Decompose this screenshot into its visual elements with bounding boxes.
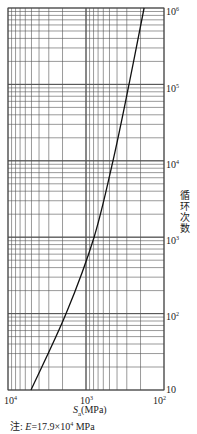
- y-tick-1e3: 103: [166, 233, 179, 246]
- fatigue-curve: [31, 8, 144, 390]
- y-tick-1e6: 106: [166, 4, 179, 17]
- chart-plot: [0, 0, 197, 434]
- y-tick-1e5: 105: [166, 81, 179, 94]
- x-axis-title: Sa(MPa): [73, 404, 107, 418]
- x-tick-1e4: 104: [4, 393, 17, 406]
- note-modulus: 注: E=17.9×104 MPa: [10, 418, 95, 433]
- y-axis-title: 循环次数: [176, 190, 191, 234]
- y-tick-1e4: 104: [166, 157, 179, 170]
- y-tick-10: 10: [166, 385, 176, 395]
- y-tick-1e2: 102: [166, 309, 179, 322]
- x-tick-1e2: 102: [153, 393, 166, 406]
